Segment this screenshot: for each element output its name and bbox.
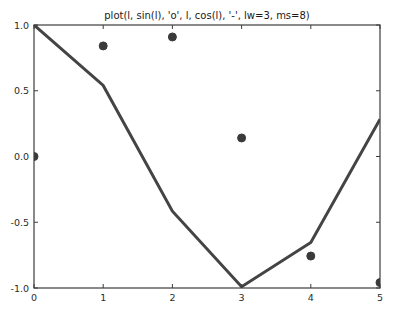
y-tick-label: -1.0	[10, 283, 29, 294]
x-tick-label: 1	[100, 292, 106, 303]
scatter-marker	[168, 33, 176, 41]
y-tick-label: -0.5	[10, 217, 29, 228]
scatter-marker	[307, 252, 315, 260]
y-tick-label: 1.0	[14, 20, 29, 31]
matplotlib-figure: plot(l, sin(l), 'o', l, cos(l), '-', lw=…	[0, 0, 401, 314]
x-tick-label: 3	[239, 292, 245, 303]
x-tick-label: 2	[169, 292, 175, 303]
chart-canvas: plot(l, sin(l), 'o', l, cos(l), '-', lw=…	[0, 0, 401, 314]
y-tick-label: 0.5	[14, 85, 29, 96]
scatter-marker	[238, 134, 246, 142]
x-tick-label: 0	[31, 292, 37, 303]
y-tick-label: 0.0	[14, 151, 29, 162]
x-tick-label: 5	[377, 292, 383, 303]
chart-title: plot(l, sin(l), 'o', l, cos(l), '-', lw=…	[104, 10, 310, 21]
scatter-marker	[99, 42, 107, 50]
x-tick-label: 4	[308, 292, 314, 303]
